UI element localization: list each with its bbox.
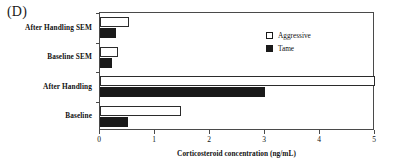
x-axis-tick-label: 1 — [152, 135, 156, 144]
x-axis-tick-label: 2 — [207, 135, 211, 144]
x-axis-tick — [99, 130, 100, 134]
bar-baseline-tame — [100, 117, 128, 127]
y-axis-label-after-handling-sem: After Handling SEM — [25, 22, 92, 31]
legend-entry-tame: Tame — [266, 43, 344, 54]
bar-after-handling-sem-aggressive — [100, 17, 129, 27]
y-axis-tick — [96, 102, 100, 103]
legend-label-aggressive: Aggressive — [278, 31, 311, 40]
y-axis-category-labels: BaselineAfter HandlingBaseline SEMAfter … — [0, 12, 96, 130]
bar-after-handling-aggressive — [100, 76, 375, 86]
bar-after-handling-sem-tame — [100, 28, 116, 38]
legend-swatch-icon-tame — [266, 45, 273, 52]
legend-swatch-icon-aggressive — [266, 32, 273, 39]
y-axis-tick — [96, 72, 100, 73]
figure-panel-d: (D) BaselineAfter HandlingBaseline SEMAf… — [0, 0, 394, 166]
x-axis-tick — [209, 130, 210, 134]
x-axis-tick-label: 4 — [317, 135, 321, 144]
y-axis-tick — [96, 13, 100, 14]
x-axis-tick-label: 3 — [262, 135, 266, 144]
x-axis-tick — [319, 130, 320, 134]
x-axis-tick — [374, 130, 375, 134]
legend: AggressiveTame — [266, 30, 344, 56]
bar-baseline-sem-tame — [100, 58, 112, 68]
y-axis-label-baseline-sem: Baseline SEM — [47, 52, 92, 61]
legend-label-tame: Tame — [278, 44, 294, 53]
x-axis-title: Corticosteroid concentration (ng/mL) — [99, 149, 374, 158]
x-axis-tick — [264, 130, 265, 134]
legend-entry-aggressive: Aggressive — [266, 30, 344, 41]
y-axis-label-baseline: Baseline — [65, 111, 92, 120]
x-axis-tick — [154, 130, 155, 134]
bar-after-handling-tame — [100, 87, 265, 97]
y-axis-tick — [96, 43, 100, 44]
bar-baseline-sem-aggressive — [100, 47, 118, 57]
bar-baseline-aggressive — [100, 106, 181, 116]
y-axis-label-after-handling: After Handling — [43, 81, 92, 90]
x-axis-tick-label: 5 — [372, 135, 376, 144]
x-axis-tick-label: 0 — [97, 135, 101, 144]
